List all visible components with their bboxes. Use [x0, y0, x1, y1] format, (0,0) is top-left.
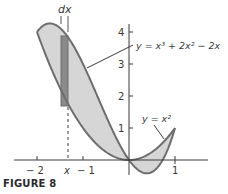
cubic-equation-label: y = x³ + 2x² − 2x [135, 40, 221, 51]
figure-caption: FIGURE 8 [3, 178, 56, 189]
parabola-leader-line [154, 125, 164, 139]
area-between-curves-figure: − 2 − 1 1 1 2 3 4 x dx y = x³ + 2x² − 2x… [0, 0, 228, 194]
x-marker-label: x [63, 165, 70, 176]
parabola-equation-label: y = x² [141, 113, 171, 124]
x-tick-label-neg2: − 2 [26, 165, 44, 176]
y-tick-label-2: 2 [118, 91, 124, 102]
y-tick-label-3: 3 [118, 59, 124, 70]
dx-label: dx [58, 3, 72, 16]
y-tick-label-1: 1 [118, 123, 124, 134]
cubic-leader-line [87, 45, 133, 68]
x-tick-label-1: 1 [172, 165, 178, 176]
x-tick-label-neg1: − 1 [77, 165, 95, 176]
y-tick-label-4: 4 [118, 27, 124, 38]
